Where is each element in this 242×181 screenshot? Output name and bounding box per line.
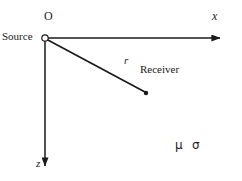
source-to-receiver-ray <box>46 39 145 92</box>
distance-r-label: r <box>124 55 128 66</box>
x-axis-label: x <box>212 10 217 22</box>
origin-label: O <box>44 10 53 22</box>
receiver-label: Receiver <box>140 64 179 75</box>
source-label: Source <box>2 31 33 42</box>
diagram-canvas <box>0 0 242 181</box>
sigma-symbol-label: σ <box>192 139 200 151</box>
receiver-point-marker <box>144 91 148 95</box>
source-origin-marker <box>42 35 48 41</box>
mu-symbol-label: μ <box>175 139 183 151</box>
coordinate-diagram: Source O x z r Receiver μ σ <box>0 0 242 181</box>
z-axis-label: z <box>36 158 40 169</box>
